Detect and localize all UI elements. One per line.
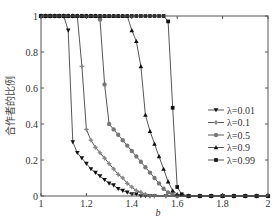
circle-marker-icon xyxy=(107,122,111,126)
circle-marker-icon xyxy=(139,160,143,164)
x-tick-label: 1.2 xyxy=(80,198,93,209)
square-marker-icon xyxy=(171,106,175,110)
x-tick-label: 1.8 xyxy=(216,198,229,209)
square-marker-icon xyxy=(175,185,179,189)
y-axis-label: 合作者的比例 xyxy=(4,76,16,136)
y-tick-label: 0.8 xyxy=(26,47,39,58)
legend-label: λ=0.5 xyxy=(227,130,250,141)
circle-marker-icon xyxy=(161,187,165,191)
y-tick-label: 0 xyxy=(33,191,38,202)
legend-label: λ=0.99 xyxy=(227,155,255,166)
y-tick-label: 0.2 xyxy=(26,155,39,166)
y-tick-label: 0.4 xyxy=(26,119,39,130)
circle-marker-icon xyxy=(134,154,138,158)
y-tick-label: 1 xyxy=(33,11,38,22)
x-tick-label: 1 xyxy=(39,198,44,209)
circle-marker-icon xyxy=(166,190,170,194)
circle-marker-icon xyxy=(102,82,106,86)
y-tick-label: 0.6 xyxy=(26,83,39,94)
circle-marker-icon xyxy=(125,143,129,147)
circle-marker-icon xyxy=(152,176,156,180)
legend-label: λ=0.9 xyxy=(227,142,250,153)
circle-marker-icon xyxy=(98,17,102,21)
circle-marker-icon xyxy=(157,181,161,185)
legend-label: λ=0.1 xyxy=(227,117,250,128)
square-marker-icon xyxy=(214,158,218,162)
legend-label: λ=0.01 xyxy=(227,105,255,116)
x-tick-label: 2 xyxy=(266,198,271,209)
circle-marker-icon xyxy=(214,133,218,137)
circle-marker-icon xyxy=(130,149,134,153)
square-marker-icon xyxy=(166,20,170,24)
circle-marker-icon xyxy=(121,138,125,142)
circle-marker-icon xyxy=(148,170,152,174)
x-axis-label: b xyxy=(156,207,161,218)
circle-marker-icon xyxy=(116,133,120,137)
square-marker-icon xyxy=(180,192,184,196)
circle-marker-icon xyxy=(111,127,115,131)
x-tick-label: 1.6 xyxy=(171,198,184,209)
x-tick-label: 1.4 xyxy=(126,198,139,209)
chart: 11.21.41.61.8200.20.40.60.81 λ=0.01λ=0.1… xyxy=(0,0,278,219)
circle-marker-icon xyxy=(143,165,147,169)
